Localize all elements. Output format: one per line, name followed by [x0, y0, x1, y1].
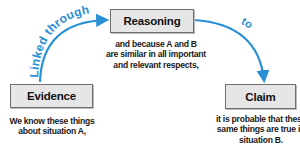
reasoning-description: and because A and B are similar in all i…: [100, 39, 212, 70]
edge-label-linked-through: Linked through: [27, 2, 91, 78]
evidence-label: Evidence: [27, 90, 76, 102]
reasoning-box: Reasoning: [110, 9, 194, 33]
reasoning-label: Reasoning: [124, 15, 181, 27]
claim-box: Claim: [225, 84, 296, 109]
claim-line: situation B.: [206, 135, 300, 145]
claim-description: it is probable that these same things ar…: [206, 114, 300, 145]
reasoning-line: are similar in all important: [100, 49, 212, 59]
evidence-line: about situation A,: [2, 126, 102, 136]
edge-label-to: to: [240, 15, 256, 31]
claim-line: same things are true in: [206, 124, 300, 134]
evidence-description: We know these things about situation A,: [2, 116, 102, 137]
claim-label: Claim: [245, 91, 275, 103]
evidence-box: Evidence: [10, 84, 93, 108]
evidence-line: We know these things: [2, 116, 102, 126]
claim-line: it is probable that these: [206, 114, 300, 124]
reasoning-line: and because A and B: [100, 39, 212, 49]
reasoning-line: and relevant respects,: [100, 60, 212, 70]
